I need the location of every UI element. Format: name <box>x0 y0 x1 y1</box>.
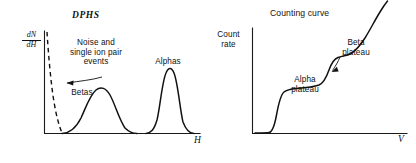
alpha-plateau-label: Alpha plateau <box>282 75 328 94</box>
dphs-alphas-label: Alphas <box>147 57 189 67</box>
dphs-betas-label: Betas <box>63 88 101 98</box>
beta-plateau-label: Beta plateau <box>333 38 379 57</box>
counting-x-axis-label: V <box>398 134 404 145</box>
dphs-y-axis-label: dN dH <box>22 31 41 50</box>
counting-y-axis-label: Count rate <box>208 30 249 49</box>
dphs-noise-arrow-icon <box>67 80 74 85</box>
counting-curve-line <box>255 1 388 133</box>
dphs-y-axis-denominator: dH <box>22 41 41 49</box>
dphs-x-axis-label: H <box>194 135 201 146</box>
dphs-plot <box>0 0 208 163</box>
beta-plateau-arrow-icon <box>332 67 339 72</box>
panel-counting-curve: Counting curve Count rate Alpha plateau … <box>208 0 416 163</box>
dphs-noise-annotation: Noise and single ion pair events <box>53 38 139 67</box>
dphs-title: DPHS <box>72 10 100 21</box>
panel-dphs: DPHS dN dH Noise and single ion pair eve… <box>0 0 208 163</box>
dphs-y-axis-numerator: dN <box>22 31 41 39</box>
counting-curve-title: Counting curve <box>270 9 329 19</box>
figure-root: DPHS dN dH Noise and single ion pair eve… <box>0 0 416 163</box>
dphs-alphas-curve <box>146 69 194 134</box>
